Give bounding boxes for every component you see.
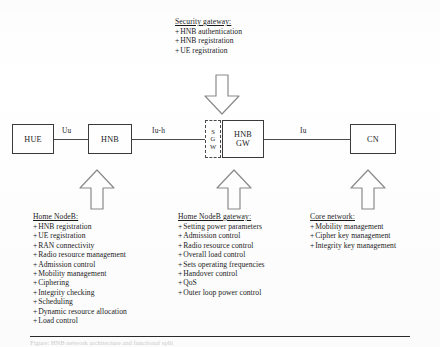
node-hnbgw-line2: GW xyxy=(234,139,252,148)
annotation-item: +UE registration xyxy=(175,46,242,55)
down-block-arrow-icon xyxy=(202,74,242,120)
up-block-arrow-icon-core-network xyxy=(348,168,388,214)
figure-caption: Figure: HNB network architecture and fun… xyxy=(30,339,173,346)
annotation-item-label: Radio resource management xyxy=(38,250,126,259)
node-cn-label: CN xyxy=(367,135,379,144)
annotation-item-label: HNB registration xyxy=(180,36,233,45)
annotation-item: +HNB authentication xyxy=(175,27,242,36)
up-block-arrow-icon-hnb xyxy=(77,168,117,214)
annotation-item-label: Scheduling xyxy=(38,297,73,306)
annotation-item: +Integrity checking xyxy=(33,288,127,297)
annotation-item-label: Integrity checking xyxy=(38,288,94,297)
node-hnb-label: HNB xyxy=(101,135,119,144)
link-hue-hnb xyxy=(54,139,88,140)
annotation-item: +HNB registration xyxy=(33,222,127,231)
annotation-item-label: Integrity key management xyxy=(315,241,396,250)
annotation-heading: Home NodeB: xyxy=(33,212,127,221)
annotation-heading: Security gateway: xyxy=(175,17,242,26)
annotation-heading: Home NodeB gateway: xyxy=(178,212,265,221)
annotation-item-label: HNB registration xyxy=(38,222,91,231)
annotation-item: +Setting power parameters xyxy=(178,222,265,231)
up-block-arrow-icon-hnb-gateway xyxy=(214,168,254,214)
annotation-item-label: UE registration xyxy=(38,231,85,240)
annotation-item-label: Outer loop power control xyxy=(183,288,261,297)
interface-label-iu: Iu xyxy=(300,126,307,135)
annotation-item: +Overall load control xyxy=(178,250,265,259)
annotation-item-label: HNB authentication xyxy=(180,27,242,36)
annotation-item: +Dynamic resource allocation xyxy=(33,307,127,316)
annotation-item-label: RAN connectivity xyxy=(38,241,94,250)
annotation-item-label: UE registration xyxy=(180,46,227,55)
annotation-item-label: Admission control xyxy=(183,231,240,240)
annotation-item: +Outer loop power control xyxy=(178,288,265,297)
annotation-item: +QoS xyxy=(178,278,265,287)
node-hnb: HNB xyxy=(88,124,132,154)
annotation-item: +Radio resource management xyxy=(33,250,127,259)
annotation-core-network: Core network: +Mobility management +Ciph… xyxy=(310,212,396,250)
annotation-item-label: Overall load control xyxy=(183,250,245,259)
annotation-item-label: Setting power parameters xyxy=(183,222,262,231)
interface-label-uu: Uu xyxy=(62,126,71,135)
interface-label-iuh: Iu-h xyxy=(152,126,165,135)
annotation-home-nodeb: Home NodeB: +HNB registration +UE regist… xyxy=(33,212,127,325)
annotation-item: +Handover control xyxy=(178,269,265,278)
node-core-network: CN xyxy=(350,124,396,154)
node-hue: HUE xyxy=(12,124,54,154)
annotation-item-label: QoS xyxy=(183,278,197,287)
node-hue-label: HUE xyxy=(24,135,41,144)
node-hnbgw-label: HNB GW xyxy=(234,130,252,148)
annotation-item: +Integrity key management xyxy=(310,241,396,250)
link-hnbgw-cn xyxy=(264,139,350,140)
annotation-item: +Radio resource control xyxy=(178,241,265,250)
annotation-item: +RAN connectivity xyxy=(33,241,127,250)
annotation-item-label: Ciphering xyxy=(38,278,69,287)
annotation-item: +Admission control xyxy=(178,231,265,240)
annotation-item-label: Cipher key management xyxy=(315,231,390,240)
annotation-item-label: Radio resource control xyxy=(183,241,253,250)
link-hnb-sgw xyxy=(132,139,205,140)
annotation-item: +HNB registration xyxy=(175,36,242,45)
annotation-item: +UE registration xyxy=(33,231,127,240)
node-sgw-letter-s: S xyxy=(211,128,215,135)
annotation-item: +Scheduling xyxy=(33,297,127,306)
node-sgw-letter-g: G xyxy=(211,135,216,142)
annotation-item: +Mobility management xyxy=(33,269,127,278)
annotation-item-label: Sets operating frequencies xyxy=(183,260,264,269)
node-hnbgw-line1: HNB xyxy=(234,130,252,139)
annotation-item-label: Handover control xyxy=(183,269,237,278)
annotation-item-label: Admission control xyxy=(38,260,95,269)
annotation-item: +Cipher key management xyxy=(310,231,396,240)
annotation-item: +Load control xyxy=(33,316,127,325)
node-sgw-letter-w: W xyxy=(210,143,216,150)
annotation-home-nodeb-gateway: Home NodeB gateway: +Setting power param… xyxy=(178,212,265,297)
annotation-item: +Mobility management xyxy=(310,222,396,231)
annotation-item-label: Mobility management xyxy=(315,222,383,231)
annotation-item: +Sets operating frequencies xyxy=(178,260,265,269)
annotation-item: +Ciphering xyxy=(33,278,127,287)
network-architecture-figure: Security gateway: +HNB authentication +H… xyxy=(0,0,440,347)
annotation-heading: Core network: xyxy=(310,212,396,221)
annotation-item-label: Load control xyxy=(38,316,78,325)
annotation-security-gateway: Security gateway: +HNB authentication +H… xyxy=(175,17,242,55)
annotation-item-label: Dynamic resource allocation xyxy=(38,307,127,316)
annotation-item: +Admission control xyxy=(33,260,127,269)
figure-divider-rule xyxy=(30,336,410,337)
node-hnb-gateway: HNB GW xyxy=(222,120,264,158)
annotation-item-label: Mobility management xyxy=(38,269,106,278)
node-security-gateway: S G W xyxy=(205,120,221,158)
